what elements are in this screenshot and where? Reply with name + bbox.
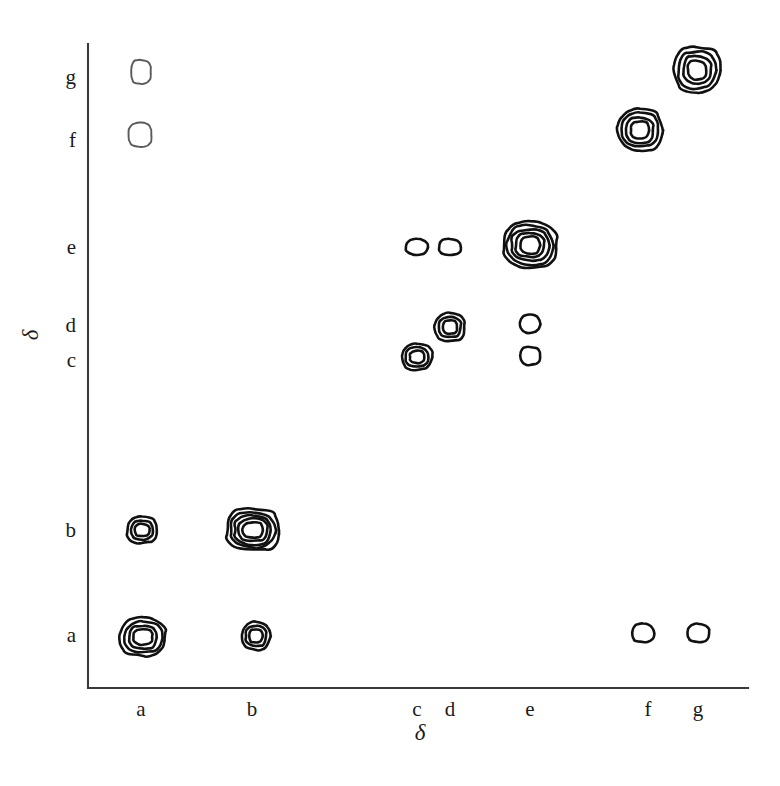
contour-level-1 xyxy=(439,239,461,255)
contour-peak-f-a xyxy=(632,623,654,642)
contour-level-1 xyxy=(410,351,424,364)
x-tick-label-f: f xyxy=(645,697,652,721)
contour-level-1 xyxy=(520,347,540,365)
contour-peak-e-d xyxy=(520,315,541,334)
x-tick-label-b: b xyxy=(247,697,258,721)
x-axis-title: δ xyxy=(415,720,426,745)
contour-peak-f-f xyxy=(617,108,663,151)
contour-peak-b-a xyxy=(242,621,271,650)
y-tick-label-a: a xyxy=(67,623,77,647)
contour-level-1 xyxy=(135,524,150,536)
contour-level-1 xyxy=(133,629,152,645)
contour-peak-b-b xyxy=(226,508,279,550)
x-tick-label-g: g xyxy=(693,697,704,721)
y-axis-title: δ xyxy=(18,329,43,340)
contour-peak-a-g xyxy=(131,60,151,84)
contour-peak-g-g xyxy=(673,47,720,93)
contour-peak-c-e xyxy=(406,239,428,255)
contour-level-4 xyxy=(119,617,166,657)
contour-level-1 xyxy=(131,60,151,84)
contour-level-1 xyxy=(406,239,428,255)
y-tick-label-d: d xyxy=(66,313,77,337)
contour-level-1 xyxy=(520,236,540,254)
y-tick-label-f: f xyxy=(69,128,76,152)
x-axis-tick-labels: abcdefg xyxy=(136,697,703,721)
x-tick-label-a: a xyxy=(136,697,146,721)
contour-peak-g-a xyxy=(687,624,709,643)
contour-level-1 xyxy=(249,629,263,642)
contour-level-4 xyxy=(617,108,663,151)
contour-level-1 xyxy=(242,522,263,537)
contour-level-1 xyxy=(632,623,654,642)
x-tick-label-c: c xyxy=(412,697,421,721)
contour-peak-e-c xyxy=(520,347,540,365)
contour-peak-a-a xyxy=(119,617,166,657)
contour-peak-c-c xyxy=(402,343,433,370)
contour-level-1 xyxy=(443,320,457,334)
contour-peak-d-d xyxy=(434,313,464,342)
plot-canvas: abcdefg gfedcba δ δ xyxy=(0,0,780,786)
contour-peak-d-e xyxy=(439,239,461,255)
contour-peaks-group xyxy=(119,47,720,657)
y-tick-label-c: c xyxy=(67,348,76,372)
contour-level-4 xyxy=(673,47,720,93)
contour-plot-figure: abcdefg gfedcba δ δ xyxy=(0,0,780,786)
contour-level-1 xyxy=(520,315,541,334)
x-tick-label-e: e xyxy=(525,697,534,721)
contour-peak-a-f xyxy=(129,122,152,147)
contour-level-1 xyxy=(129,122,152,147)
contour-level-1 xyxy=(688,60,707,79)
y-tick-label-e: e xyxy=(67,235,76,259)
x-tick-label-d: d xyxy=(445,697,456,721)
y-axis-tick-labels: gfedcba xyxy=(66,65,77,647)
contour-level-1 xyxy=(631,121,649,138)
contour-peak-a-b xyxy=(127,516,157,543)
y-tick-label-g: g xyxy=(66,65,77,89)
contour-level-1 xyxy=(687,624,709,643)
y-tick-label-b: b xyxy=(66,518,77,542)
contour-peak-e-e xyxy=(503,221,557,268)
